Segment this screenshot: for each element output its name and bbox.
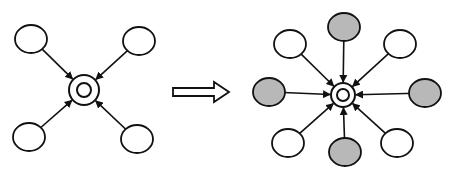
transition-arrow-icon (173, 82, 229, 102)
shaded-node-t (328, 13, 360, 41)
edge-arrow-bl (295, 104, 334, 138)
node-bl (13, 123, 45, 151)
hub-node-inner (337, 89, 349, 101)
edge-arrow-tl (296, 49, 333, 86)
right-star-diagram (253, 13, 441, 166)
shaded-node-r (409, 79, 441, 107)
transform-arrow-shape (173, 82, 229, 102)
edge-arrow-r (356, 93, 416, 94)
node-tl (15, 25, 47, 53)
edge-arrow-tr (353, 49, 394, 86)
node-br (381, 129, 413, 157)
node-tr (123, 27, 155, 55)
star-topology-diagram (0, 0, 452, 177)
node-bl (272, 129, 304, 157)
shaded-node-l (253, 78, 285, 106)
node-br (121, 125, 153, 153)
node-tl (274, 30, 306, 58)
shaded-node-b (329, 138, 361, 166)
hub-node-inner (77, 83, 91, 97)
node-tr (384, 30, 416, 58)
left-star-diagram (13, 25, 155, 153)
